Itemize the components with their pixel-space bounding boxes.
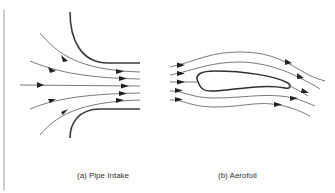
flow-diagram [0, 0, 335, 193]
pipe-intake-panel [20, 12, 140, 138]
caption-pipe-intake: (a) Pipe Intake [77, 171, 129, 180]
arrow-icon [297, 73, 304, 79]
caption-aerofoil: (b) Aerofoil [218, 171, 257, 180]
arrow-icon [177, 80, 185, 85]
pipe-lower-wall [70, 109, 140, 138]
pipe-streamline-1 [40, 33, 140, 72]
arrow-icon [274, 102, 282, 107]
arrow-icon [290, 96, 298, 101]
arrow-icon [116, 69, 124, 74]
aerofoil-profile [197, 71, 290, 91]
arrow-icon [37, 82, 44, 88]
arrow-icon [119, 91, 127, 96]
arrow-icon [121, 84, 129, 89]
aerofoil-panel [170, 52, 325, 116]
arrow-icon [301, 88, 309, 93]
aerofoil-streamline-5 [170, 100, 310, 116]
arrow-icon [119, 76, 127, 81]
pipe-streamline-5 [40, 100, 140, 135]
arrow-icon [48, 67, 56, 73]
arrow-icon [285, 59, 292, 65]
pipe-upper-wall [70, 12, 140, 63]
